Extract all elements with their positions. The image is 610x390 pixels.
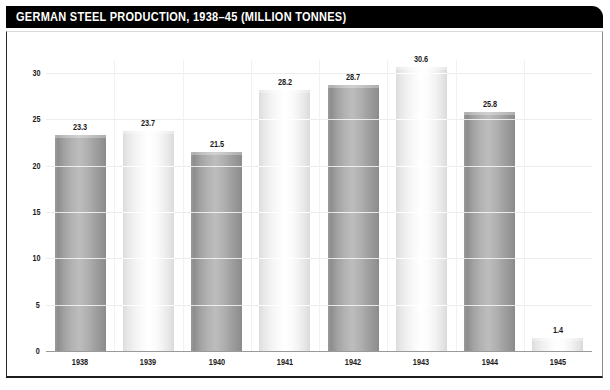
- bar-top-highlight: [191, 152, 242, 155]
- bar-gridline-group: [259, 90, 310, 351]
- bar-1943: [396, 67, 447, 351]
- bar-top-highlight: [464, 112, 515, 115]
- bar-top-highlight: [123, 131, 174, 134]
- bar-gridline-group: [464, 112, 515, 351]
- bar-value-label-1940: 21.5: [210, 139, 224, 149]
- x-axis-baseline: [46, 351, 592, 352]
- bar-1940: [191, 152, 242, 351]
- bar-top-highlight: [55, 135, 106, 138]
- gridline-vertical: [114, 60, 115, 351]
- y-axis-tick-label: 25: [32, 114, 40, 124]
- y-axis-tick-label: 30: [32, 68, 40, 78]
- bar-1945: [532, 338, 583, 351]
- y-axis: 051015202530: [20, 60, 40, 351]
- bar-value-label-1939: 23.7: [141, 118, 155, 128]
- x-axis-tick-label-1939: 1939: [140, 357, 156, 367]
- bar-value-label-1945: 1.4: [553, 325, 563, 335]
- bar-gridline-group: [55, 135, 106, 351]
- bar-value-label-1942: 28.7: [346, 72, 360, 82]
- bar-top-highlight: [396, 67, 447, 70]
- y-axis-tick-label: 0: [36, 346, 40, 356]
- chart-figure: GERMAN STEEL PRODUCTION, 1938–45 (MILLIO…: [0, 0, 610, 390]
- gridline-vertical: [524, 60, 525, 351]
- bar-top-highlight: [259, 90, 310, 93]
- bar-1944: [464, 112, 515, 351]
- bar-gridline-group: [191, 152, 242, 351]
- x-axis-tick-label-1938: 1938: [72, 357, 88, 367]
- bar-value-label-1943: 30.6: [414, 54, 428, 64]
- bar-top-highlight: [532, 338, 583, 341]
- y-axis-tick-label: 5: [36, 300, 40, 310]
- gridline-vertical: [183, 60, 184, 351]
- bar-1941: [259, 90, 310, 351]
- bar-value-label-1941: 28.2: [278, 77, 292, 87]
- gridline-vertical: [387, 60, 388, 351]
- bar-value-label-1938: 23.3: [73, 122, 87, 132]
- x-axis-tick-label-1944: 1944: [481, 357, 497, 367]
- x-axis-tick-label-1945: 1945: [550, 357, 566, 367]
- bar-value-label-1944: 25.8: [483, 99, 497, 109]
- bar-top-highlight: [328, 85, 379, 88]
- gridline-vertical: [456, 60, 457, 351]
- bar-1942: [328, 85, 379, 351]
- y-axis-tick-label: 20: [32, 161, 40, 171]
- x-axis-tick-label-1941: 1941: [277, 357, 293, 367]
- gridline-vertical: [319, 60, 320, 351]
- gridline-vertical: [251, 60, 252, 351]
- x-axis-tick-label-1940: 1940: [208, 357, 224, 367]
- x-axis-tick-label-1943: 1943: [413, 357, 429, 367]
- x-axis-tick-label-1942: 1942: [345, 357, 361, 367]
- y-axis-tick-label: 15: [32, 207, 40, 217]
- y-axis-tick-label: 10: [32, 253, 40, 263]
- title-banner: GERMAN STEEL PRODUCTION, 1938–45 (MILLIO…: [6, 6, 603, 28]
- bar-gridline-group: [328, 85, 379, 351]
- bar-1939: [123, 131, 174, 351]
- bar-1938: [55, 135, 106, 351]
- chart-title: GERMAN STEEL PRODUCTION, 1938–45 (MILLIO…: [16, 10, 346, 24]
- bar-gridline-group: [123, 131, 174, 351]
- bar-gridline-group: [396, 67, 447, 351]
